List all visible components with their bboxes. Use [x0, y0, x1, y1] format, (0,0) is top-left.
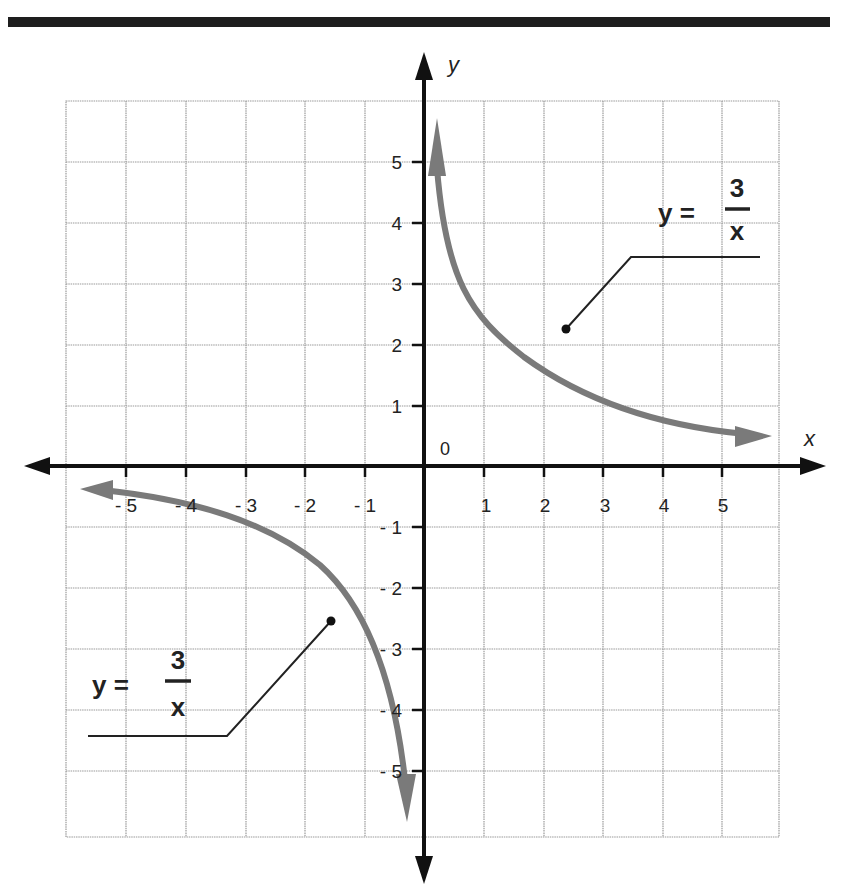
y-tick-label: 5 — [391, 152, 402, 173]
x-axis-label: x — [803, 426, 816, 451]
y-tick-label: 3 — [391, 274, 402, 295]
x-tick-label: - 5 — [115, 495, 137, 516]
curve-arrow-left-icon — [80, 480, 113, 500]
hyperbola-chart: - 5 - 4 - 3 - 2 - 1 1 2 3 4 5 1 2 3 4 5 … — [0, 0, 846, 896]
y-tick-label: - 5 — [380, 761, 402, 782]
equation-numerator: 3 — [171, 645, 185, 675]
x-axis-left-arrow-icon — [24, 457, 50, 475]
x-tick-label: 3 — [600, 495, 611, 516]
axes — [30, 60, 818, 878]
x-tick-labels: - 5 - 4 - 3 - 2 - 1 1 2 3 4 5 — [115, 495, 728, 516]
y-tick-label: 4 — [391, 213, 402, 234]
x-tick-label: 4 — [659, 495, 670, 516]
y-tick-label: - 4 — [380, 700, 403, 721]
x-axis-right-arrow-icon — [800, 457, 826, 475]
annotation-lower-left: y = 3 x — [88, 617, 336, 737]
y-axis-up-arrow-icon — [415, 52, 433, 80]
equation-denominator: x — [730, 216, 745, 246]
x-tick-label: - 3 — [235, 495, 257, 516]
x-tick-label: - 1 — [354, 495, 376, 516]
y-tick-label: 1 — [391, 396, 402, 417]
equation-lhs: y = — [92, 670, 129, 700]
y-axis-label: y — [446, 52, 461, 77]
y-tick-label: - 2 — [380, 578, 402, 599]
y-tick-label: 2 — [391, 335, 402, 356]
x-tick-label: 5 — [718, 495, 729, 516]
y-tick-label: - 3 — [380, 639, 402, 660]
x-tick-label: - 4 — [175, 495, 198, 516]
curve-arrow-right-icon — [735, 426, 772, 447]
equation-numerator: 3 — [730, 173, 744, 203]
origin-label: 0 — [440, 439, 450, 459]
x-tick-label: 2 — [540, 495, 551, 516]
equation-denominator: x — [171, 692, 186, 722]
y-axis-down-arrow-icon — [415, 856, 433, 884]
x-tick-label: 1 — [481, 495, 492, 516]
annotation-upper-right: y = 3 x — [562, 173, 761, 334]
y-tick-label: - 1 — [380, 517, 402, 538]
equation-lhs: y = — [658, 198, 695, 228]
curve-arrow-up-icon — [428, 118, 446, 176]
x-tick-label: - 2 — [294, 495, 316, 516]
